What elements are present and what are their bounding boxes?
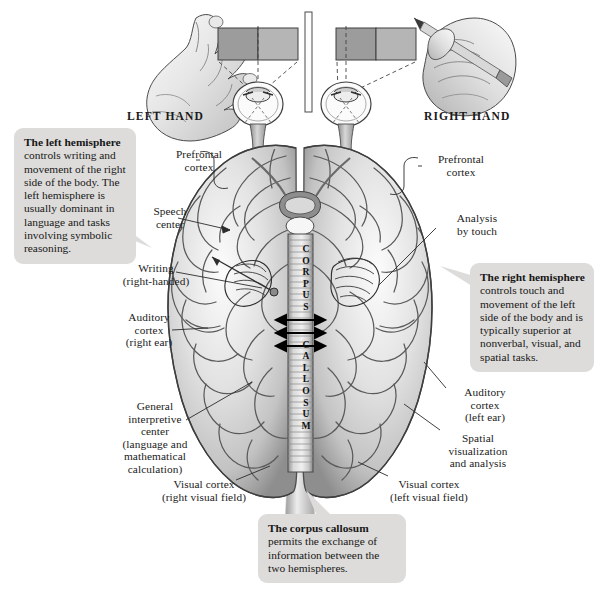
- callout-left-heading: The left hemisphere: [24, 136, 121, 148]
- label-writing: Writing (right-handed): [110, 262, 202, 287]
- callout-right-body: controls touch and movement of the left …: [480, 284, 583, 362]
- cc-letter: L: [299, 362, 313, 374]
- callout-cc-heading: The corpus callosum: [268, 522, 369, 534]
- cc-letter: L: [299, 373, 313, 385]
- label-general-interpretive: General interpretive center (language an…: [112, 400, 198, 476]
- cc-letter: A: [299, 350, 313, 362]
- label-auditory-cortex-right: Auditory cortex (right ear): [110, 311, 188, 349]
- cc-letter: C: [299, 243, 313, 255]
- cc-letter: U: [299, 289, 313, 301]
- label-spatial-visualization: Spatial visualization and analysis: [432, 432, 524, 470]
- cc-letter: S: [299, 301, 313, 313]
- label-analysis-by-touch: Analysis by touch: [440, 212, 514, 237]
- callout-left-body: controls writing and movement of the rig…: [24, 149, 126, 254]
- callout-right-heading: The right hemisphere: [480, 271, 585, 283]
- callout-cc-body: permits the exchange of information betw…: [268, 535, 379, 574]
- cc-letter: U: [299, 408, 313, 420]
- left-hand-label: LEFT HAND: [127, 110, 204, 123]
- cc-letter: M: [299, 420, 313, 432]
- label-visual-cortex-right: Visual cortex (right visual field): [148, 478, 260, 503]
- label-speech-center: Speech center: [135, 205, 205, 230]
- right-hand-label: RIGHT HAND: [424, 110, 510, 123]
- cc-letter: P: [299, 278, 313, 290]
- callout-corpus-callosum: The corpus callosum permits the exchange…: [258, 514, 406, 583]
- label-visual-cortex-left: Visual cortex (left visual field): [370, 478, 488, 503]
- label-auditory-cortex-left: Auditory cortex (left ear): [448, 386, 522, 424]
- label-prefrontal-cortex-right: Prefrontal cortex: [422, 153, 500, 178]
- cc-letter: O: [299, 385, 313, 397]
- callout-right-hemisphere: The right hemisphere controls touch and …: [470, 263, 594, 372]
- cc-letter: C: [299, 339, 313, 351]
- figure-canvas: LEFT HAND RIGHT HAND CORPUSCALLOSUM Pref…: [0, 0, 600, 590]
- cc-letter: S: [299, 397, 313, 409]
- cc-letter: O: [299, 255, 313, 267]
- label-prefrontal-cortex-left: Prefrontal cortex: [160, 148, 238, 173]
- callout-left-hemisphere: The left hemisphere controls writing and…: [14, 128, 136, 264]
- cc-letter: R: [299, 266, 313, 278]
- corpus-callosum-vertical-text: CORPUSCALLOSUM: [299, 243, 313, 431]
